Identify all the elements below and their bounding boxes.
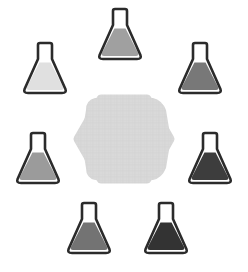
flask-top[interactable] xyxy=(92,4,148,66)
flask-icon xyxy=(92,4,148,66)
diagram-canvas xyxy=(0,0,248,272)
hexagon-rounded-edge xyxy=(78,99,170,179)
flask-icon xyxy=(138,198,194,260)
flask-bottom-right[interactable] xyxy=(138,198,194,260)
flask-icon xyxy=(10,128,66,190)
flask-top-left[interactable] xyxy=(17,38,73,100)
flask-mid-right[interactable] xyxy=(182,128,238,190)
flask-icon xyxy=(182,128,238,190)
flask-icon xyxy=(172,38,228,100)
flask-icon xyxy=(17,38,73,100)
flask-mid-left[interactable] xyxy=(10,128,66,190)
flask-bottom-left[interactable] xyxy=(61,198,117,260)
flask-icon xyxy=(61,198,117,260)
hexagon-core xyxy=(78,99,170,179)
flask-top-right[interactable] xyxy=(172,38,228,100)
